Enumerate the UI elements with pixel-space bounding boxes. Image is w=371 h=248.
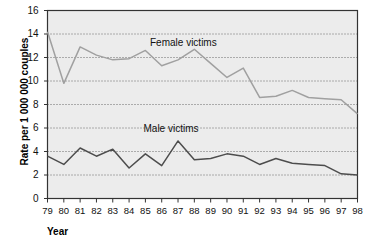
x-tick-label: 83 — [104, 206, 122, 216]
x-tick-label: 81 — [71, 206, 89, 216]
series-label-male-victims: Male victims — [144, 123, 199, 134]
x-tick-label: 84 — [120, 206, 138, 216]
x-tick-label: 80 — [55, 206, 73, 216]
x-tick-label: 86 — [153, 206, 171, 216]
x-tick-label: 91 — [234, 206, 252, 216]
y-tick-label: 12 — [19, 53, 39, 63]
x-tick-label: 94 — [283, 206, 301, 216]
x-tick-label: 88 — [185, 206, 203, 216]
x-tick-label: 90 — [218, 206, 236, 216]
chart-container: Rate per 1 000 000 couples Year 02468101… — [0, 0, 371, 248]
y-tick-label: 2 — [19, 170, 39, 180]
y-tick-label: 8 — [19, 100, 39, 110]
x-tick-label: 89 — [202, 206, 220, 216]
x-tick-label: 96 — [316, 206, 334, 216]
y-tick-label: 14 — [19, 29, 39, 39]
y-tick-label: 16 — [19, 6, 39, 16]
x-tick-label: 85 — [136, 206, 154, 216]
x-tick-label: 79 — [39, 206, 57, 216]
x-tick-label: 82 — [87, 206, 105, 216]
x-tick-label: 93 — [267, 206, 285, 216]
x-tick-label: 92 — [251, 206, 269, 216]
x-tick-label: 95 — [300, 206, 318, 216]
y-tick-label: 4 — [19, 147, 39, 157]
x-tick-label: 87 — [169, 206, 187, 216]
y-tick-label: 6 — [19, 123, 39, 133]
x-axis-title: Year — [47, 226, 68, 237]
x-tick-label: 97 — [332, 206, 350, 216]
y-tick-label: 10 — [19, 76, 39, 86]
x-tick-label: 98 — [349, 206, 367, 216]
y-tick-label: 0 — [19, 194, 39, 204]
series-label-female-victims: Female victims — [150, 37, 217, 48]
